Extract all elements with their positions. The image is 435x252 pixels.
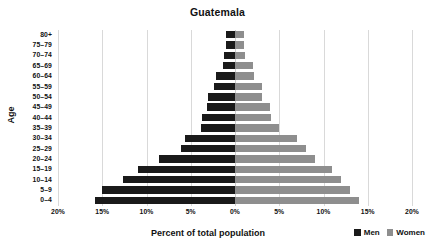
bar-row bbox=[58, 134, 412, 144]
gridline-20 bbox=[412, 30, 413, 206]
y-tick-label: 25–29 bbox=[33, 146, 52, 153]
bar-men bbox=[138, 166, 235, 173]
y-tick-label: 20–24 bbox=[33, 156, 52, 163]
bar-row bbox=[58, 92, 412, 102]
x-tick-label: 10% bbox=[140, 208, 154, 215]
bar-women bbox=[235, 197, 359, 204]
bar-men bbox=[207, 103, 235, 110]
chart-title: Guatemala bbox=[0, 6, 435, 18]
bar-men bbox=[226, 31, 235, 38]
bar-men bbox=[202, 114, 235, 121]
x-tick-label: 20% bbox=[405, 208, 419, 215]
bar-women bbox=[235, 103, 270, 110]
y-axis-tick-labels: 80+75–7970–7465–6960–6455–5950–5445–4940… bbox=[0, 30, 56, 206]
bar-men bbox=[201, 124, 235, 131]
legend-swatch-men-icon bbox=[354, 229, 361, 236]
bar-men bbox=[181, 145, 235, 152]
x-tick-label: 0% bbox=[230, 208, 240, 215]
chart-legend: Men Women bbox=[354, 228, 425, 237]
bar-row bbox=[58, 71, 412, 81]
bar-row bbox=[58, 102, 412, 112]
bar-women bbox=[235, 31, 244, 38]
y-tick-label: 65–69 bbox=[33, 63, 52, 70]
bar-women bbox=[235, 145, 306, 152]
x-axis-title: Percent of total population bbox=[58, 228, 358, 238]
bar-men bbox=[208, 93, 235, 100]
population-pyramid-chart: Guatemala Age 80+75–7970–7465–6960–6455–… bbox=[0, 0, 435, 252]
y-tick-label: 30–34 bbox=[33, 135, 52, 142]
bar-men bbox=[224, 52, 235, 59]
bar-women bbox=[235, 114, 271, 121]
bar-rows bbox=[58, 30, 412, 206]
bar-men bbox=[226, 41, 235, 48]
bar-row bbox=[58, 61, 412, 71]
bar-men bbox=[95, 197, 235, 204]
y-tick-label: 55–59 bbox=[33, 84, 52, 91]
legend-label-men: Men bbox=[364, 228, 380, 237]
bar-row bbox=[58, 40, 412, 50]
y-tick-label: 15–19 bbox=[33, 166, 52, 173]
x-axis-tick-labels: 20%15%10%5%0%5%10%15%20% bbox=[58, 208, 412, 222]
y-tick-label: 60–64 bbox=[33, 73, 52, 80]
legend-item-women[interactable]: Women bbox=[387, 228, 425, 237]
bar-men bbox=[102, 186, 235, 193]
bar-row bbox=[58, 185, 412, 195]
bar-women bbox=[235, 83, 262, 90]
bar-women bbox=[235, 166, 332, 173]
bar-women bbox=[235, 62, 253, 69]
y-tick-label: 5–9 bbox=[40, 187, 52, 194]
bar-men bbox=[216, 72, 235, 79]
x-tick-label: 15% bbox=[361, 208, 375, 215]
x-tick-label: 5% bbox=[186, 208, 196, 215]
bar-women bbox=[235, 41, 244, 48]
legend-swatch-women-icon bbox=[387, 229, 394, 236]
y-tick-label: 50–54 bbox=[33, 94, 52, 101]
bar-women bbox=[235, 155, 315, 162]
bar-women bbox=[235, 135, 297, 142]
x-tick-label: 5% bbox=[274, 208, 284, 215]
bar-men bbox=[214, 83, 235, 90]
bar-row bbox=[58, 82, 412, 92]
y-tick-label: 10–14 bbox=[33, 177, 52, 184]
legend-label-women: Women bbox=[396, 228, 425, 237]
bar-women bbox=[235, 186, 350, 193]
x-tick-label: 10% bbox=[317, 208, 331, 215]
bar-men bbox=[223, 62, 235, 69]
bar-women bbox=[235, 52, 245, 59]
bar-row bbox=[58, 123, 412, 133]
x-tick-label: 20% bbox=[51, 208, 65, 215]
y-tick-label: 0–4 bbox=[40, 197, 52, 204]
x-tick-label: 15% bbox=[95, 208, 109, 215]
bar-men bbox=[123, 176, 235, 183]
y-tick-label: 75–79 bbox=[33, 42, 52, 49]
y-tick-label: 45–49 bbox=[33, 104, 52, 111]
plot-area bbox=[58, 30, 412, 206]
legend-item-men[interactable]: Men bbox=[354, 228, 380, 237]
bar-women bbox=[235, 72, 254, 79]
bar-row bbox=[58, 144, 412, 154]
bar-men bbox=[159, 155, 235, 162]
bar-women bbox=[235, 124, 279, 131]
y-tick-label: 40–44 bbox=[33, 115, 52, 122]
bar-row bbox=[58, 30, 412, 40]
bar-row bbox=[58, 113, 412, 123]
bar-row bbox=[58, 51, 412, 61]
y-tick-label: 70–74 bbox=[33, 52, 52, 59]
bar-row bbox=[58, 175, 412, 185]
bar-women bbox=[235, 93, 262, 100]
bar-women bbox=[235, 176, 341, 183]
bar-row bbox=[58, 165, 412, 175]
bar-men bbox=[185, 135, 235, 142]
y-tick-label: 35–39 bbox=[33, 125, 52, 132]
y-tick-label: 80+ bbox=[40, 32, 52, 39]
bar-row bbox=[58, 196, 412, 206]
bar-row bbox=[58, 154, 412, 164]
